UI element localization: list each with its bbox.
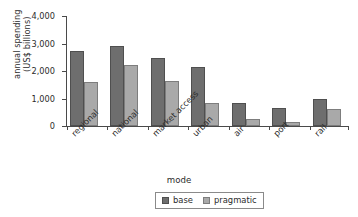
- legend-swatch-base-icon: [162, 197, 169, 204]
- x-axis-tick: [348, 126, 349, 130]
- y-axis-tick-label: 2,000: [21, 67, 55, 75]
- bar-base-national: [110, 46, 124, 126]
- plot-area: 01,0002,0003,0004,000: [66, 16, 349, 126]
- bar-base-rail: [313, 99, 327, 127]
- bar-pragmatic-rail: [327, 109, 341, 126]
- x-axis-tick: [229, 126, 230, 130]
- bar-base-regional: [70, 51, 84, 126]
- x-axis-tick: [188, 126, 189, 130]
- x-axis-tick: [67, 126, 68, 130]
- y-axis-tick-label: 1,000: [21, 95, 55, 103]
- y-axis-tick-label: 4,000: [21, 12, 55, 20]
- x-axis-title: mode: [0, 175, 358, 185]
- bar-group: [269, 16, 309, 126]
- y-axis-tick-label: 0: [21, 122, 55, 130]
- y-axis-tick-label: 3,000: [21, 40, 55, 48]
- bar-base-market-access: [151, 58, 165, 126]
- legend-label-pragmatic: pragmatic: [214, 196, 257, 205]
- legend-item-base: base: [162, 196, 193, 205]
- bar-group: [310, 16, 350, 126]
- legend-swatch-pragmatic-icon: [203, 197, 210, 204]
- bar-group: [229, 16, 269, 126]
- bar-pragmatic-air: [246, 119, 260, 126]
- bar-chart: annual spending (US$ billions) 01,0002,0…: [0, 0, 358, 217]
- bar-groups: [67, 16, 349, 126]
- chart-legend: base pragmatic: [155, 192, 264, 209]
- legend-item-pragmatic: pragmatic: [203, 196, 257, 205]
- x-axis-tick: [269, 126, 270, 130]
- x-axis-tick: [107, 126, 108, 130]
- x-axis-tick: [310, 126, 311, 130]
- legend-label-base: base: [173, 196, 193, 205]
- bar-group: [67, 16, 107, 126]
- bar-group: [107, 16, 147, 126]
- bar-group: [188, 16, 228, 126]
- x-axis-tick: [148, 126, 149, 130]
